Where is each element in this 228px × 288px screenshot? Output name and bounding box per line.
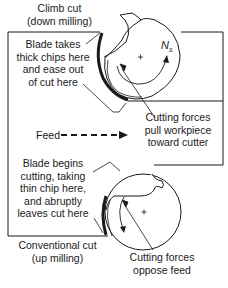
climb-cut-heading: Climb cut (down milling) xyxy=(22,2,97,27)
top-cutter xyxy=(98,13,180,100)
bottom-cutter xyxy=(103,174,181,250)
climb-force-note: Cutting forces pull workpiece toward cut… xyxy=(138,111,218,149)
conventional-cut-heading: Conventional cut (up milling) xyxy=(10,239,105,264)
conventional-force-note: Cutting forces oppose feed xyxy=(122,251,202,276)
climb-blade-note: Blade takes thick chips here and ease ou… xyxy=(10,38,96,88)
feed-label: Feed xyxy=(30,129,60,142)
feed-arrow xyxy=(61,131,128,139)
spindle-speed-label: Ns xyxy=(161,39,172,53)
conventional-blade-note: Blade begins cutting, taking thin chip h… xyxy=(10,157,96,220)
